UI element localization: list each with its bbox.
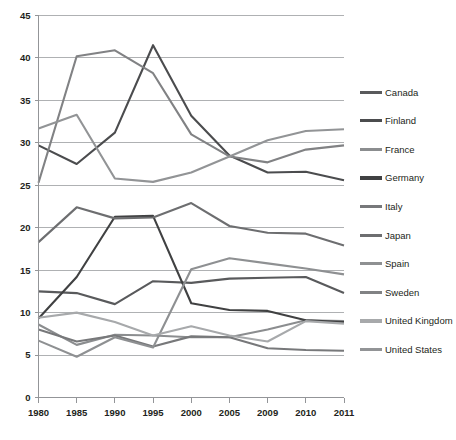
legend-list: CanadaFinlandFranceGermanyItalyJapanSpai… [360,78,456,364]
x-tick-label: 1990 [104,407,125,418]
legend-swatch-icon [360,348,382,351]
legend-item-united-states[interactable]: United States [360,335,456,364]
legend-item-italy[interactable]: Italy [360,192,456,221]
y-axis-ticks-group [35,16,39,398]
y-tick-label: 40 [20,52,31,63]
y-tick-label: 0 [25,392,30,403]
legend-item-france[interactable]: France [360,135,456,164]
legend-item-spain[interactable]: Spain [360,250,456,279]
x-axis-ticks-group [39,398,345,403]
x-axis-labels-group: 198019851990199520002005200920102011 [28,407,355,418]
line-chart: 051015202530354045 198019851990199520002… [0,0,456,440]
legend-item-germany[interactable]: Germany [360,164,456,193]
legend-label: Italy [385,202,402,212]
legend-swatch-icon [360,319,382,322]
y-tick-label: 10 [20,307,31,318]
legend-label: Canada [385,88,418,98]
legend-label: Spain [385,259,409,269]
legend-item-finland[interactable]: Finland [360,107,456,136]
x-tick-label: 2000 [181,407,202,418]
legend-item-united-kingdom[interactable]: United Kingdom [360,307,456,336]
legend-swatch-icon [360,119,382,122]
y-axis-labels-group: 051015202530354045 [20,10,31,403]
x-tick-label: 1995 [142,407,164,418]
x-tick-label: 2010 [295,407,316,418]
y-tick-label: 30 [20,137,31,148]
legend-swatch-icon [360,205,382,208]
series-line-canada [39,277,345,304]
series-line-finland [39,45,345,180]
y-tick-label: 15 [20,265,31,276]
legend-swatch-icon [360,262,382,265]
y-tick-label: 20 [20,222,31,233]
y-tick-label: 45 [20,10,31,21]
x-tick-label: 2011 [334,407,355,418]
chart-legend: CanadaFinlandFranceGermanyItalyJapanSpai… [360,0,456,440]
x-tick-label: 1980 [28,407,49,418]
x-tick-label: 2005 [219,407,241,418]
legend-label: Sweden [385,288,419,298]
plot-area: 051015202530354045 198019851990199520002… [0,0,360,440]
legend-label: Finland [385,116,416,126]
legend-label: Germany [385,173,424,183]
plot-svg: 051015202530354045 198019851990199520002… [0,0,360,440]
legend-label: United States [385,345,442,355]
legend-item-japan[interactable]: Japan [360,221,456,250]
legend-swatch-icon [360,234,382,237]
legend-swatch-icon [360,291,382,294]
legend-swatch-icon [360,148,382,151]
y-tick-label: 25 [20,180,31,191]
series-group [39,45,345,357]
legend-item-canada[interactable]: Canada [360,78,456,107]
legend-label: United Kingdom [385,316,453,326]
x-tick-label: 1985 [66,407,88,418]
legend-label: France [385,145,415,155]
legend-item-sweden[interactable]: Sweden [360,278,456,307]
legend-label: Japan [385,231,411,241]
y-tick-label: 35 [20,95,31,106]
legend-swatch-icon [360,176,382,179]
legend-swatch-icon [360,91,382,94]
y-tick-label: 5 [25,349,31,360]
x-tick-label: 2009 [257,407,278,418]
series-line-italy [39,330,345,351]
series-line-japan [39,203,345,245]
